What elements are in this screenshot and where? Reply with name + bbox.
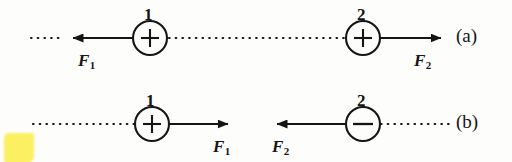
physics-figure: 1 2 F1 F2 (a) 1 2 F1 F2 (b) [0, 0, 512, 162]
highlighter-mark [4, 133, 34, 162]
force-label-b1-sub: 1 [225, 145, 231, 157]
force-label-a2: F2 [414, 52, 431, 71]
force-label-a1-sub: 1 [90, 59, 96, 71]
charge-label-a2: 2 [357, 6, 366, 23]
charge-label-a1: 1 [144, 6, 153, 23]
row-label-b: (b) [456, 112, 478, 131]
force-label-b1: F1 [213, 138, 230, 157]
row-label-a: (a) [456, 26, 477, 45]
row-b-group [33, 107, 451, 141]
force-label-b2-name: F [272, 137, 283, 156]
charge-label-b2: 2 [357, 92, 366, 109]
force-diagram-canvas [0, 0, 512, 162]
row-a-group [31, 21, 441, 55]
force-label-a1-name: F [78, 51, 89, 70]
force-label-b1-name: F [213, 137, 224, 156]
force-label-a2-sub: 2 [426, 59, 432, 71]
force-label-b2-sub: 2 [284, 145, 290, 157]
force-label-a2-name: F [414, 51, 425, 70]
force-label-b2: F2 [272, 138, 289, 157]
force-label-a1: F1 [78, 52, 95, 71]
charge-label-b1: 1 [146, 92, 155, 109]
